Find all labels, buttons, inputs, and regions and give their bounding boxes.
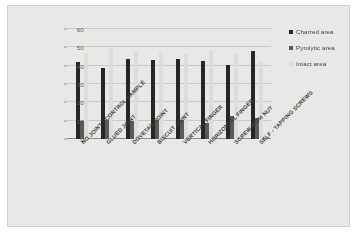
legend-label: Pyrolytic area	[296, 44, 335, 51]
legend-swatch-icon	[289, 30, 293, 34]
y-axis-tick-mark	[64, 29, 67, 30]
y-axis-tick-mark	[64, 139, 67, 140]
y-axis-tick-mark	[64, 65, 67, 66]
bar	[184, 54, 188, 139]
legend-swatch-icon	[289, 62, 293, 66]
legend-label: Charred area	[296, 28, 334, 35]
bar	[109, 48, 113, 139]
bar	[159, 52, 163, 139]
x-axis-labels: NO JOINT - CONTROL SAMPLEGLUED JOINTDOVE…	[67, 141, 271, 221]
legend-item[interactable]: Pyrolytic area	[289, 44, 359, 51]
chart-legend: Charred areaPyrolytic areaIntact area	[289, 28, 359, 76]
legend-item[interactable]: Intact area	[289, 60, 359, 67]
legend-swatch-icon	[289, 46, 293, 50]
legend-item[interactable]: Charred area	[289, 28, 359, 35]
y-axis-tick-mark	[64, 84, 67, 85]
y-axis-tick-mark	[64, 102, 67, 103]
y-axis-tick-mark	[64, 47, 67, 48]
bar	[259, 62, 263, 139]
bar	[84, 53, 88, 139]
bar	[234, 53, 238, 139]
y-axis-tick-mark	[64, 120, 67, 121]
chart-figure: Area (%) 6050403020100 NO JOINT - CONTRO…	[7, 5, 350, 227]
bar	[209, 50, 213, 139]
legend-label: Intact area	[296, 60, 326, 67]
